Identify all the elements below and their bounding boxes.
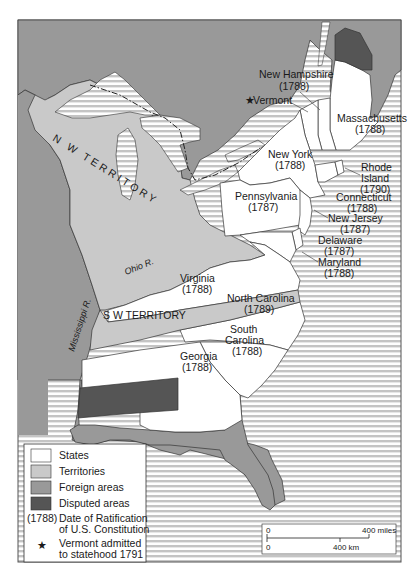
label-south-carolina-year: (1788) bbox=[232, 345, 262, 357]
legend-star-icon: ★ bbox=[37, 539, 47, 551]
scale-zero-miles: 0 bbox=[266, 526, 271, 535]
label-pennsylvania-year: (1787) bbox=[248, 201, 278, 213]
label-georgia-year: (1788) bbox=[182, 361, 212, 373]
us-1787-ratification-map: N W TERRITORY S W TERRITORY Ohio R. Miss… bbox=[0, 0, 417, 586]
legend: States Territories Foreign areas Dispute… bbox=[24, 444, 150, 562]
label-new-york-year: (1788) bbox=[275, 159, 305, 171]
legend-swatch-states bbox=[31, 449, 51, 462]
sw-territory-label: S W TERRITORY bbox=[103, 309, 186, 321]
label-massachusetts-year: (1788) bbox=[355, 123, 385, 135]
legend-ratification-line2: of U.S. Constitution bbox=[59, 523, 150, 535]
legend-label-disputed: Disputed areas bbox=[59, 497, 130, 509]
label-virginia-year: (1788) bbox=[182, 283, 212, 295]
legend-swatch-territories bbox=[31, 465, 51, 478]
scale-bar: 0 400 miles 0 400 km bbox=[262, 524, 396, 554]
legend-vermont-line2: to statehood 1791 bbox=[59, 548, 143, 560]
label-maryland-year: (1788) bbox=[324, 267, 354, 279]
label-new-hampshire-year: (1788) bbox=[279, 80, 309, 92]
scale-miles-label: 400 miles bbox=[362, 526, 396, 535]
scale-zero-km: 0 bbox=[266, 543, 271, 552]
label-vermont: Vermont bbox=[253, 94, 292, 106]
scale-km-label: 400 km bbox=[333, 543, 360, 552]
legend-swatch-foreign bbox=[31, 481, 51, 494]
legend-ratification-key: (1788) bbox=[27, 512, 57, 524]
legend-label-territories: Territories bbox=[59, 465, 105, 477]
legend-swatch-disputed bbox=[31, 497, 51, 510]
label-new-hampshire: New Hampshire bbox=[259, 68, 334, 80]
legend-label-states: States bbox=[59, 449, 89, 461]
legend-label-foreign: Foreign areas bbox=[59, 481, 124, 493]
label-north-carolina-year: (1789) bbox=[244, 303, 274, 315]
